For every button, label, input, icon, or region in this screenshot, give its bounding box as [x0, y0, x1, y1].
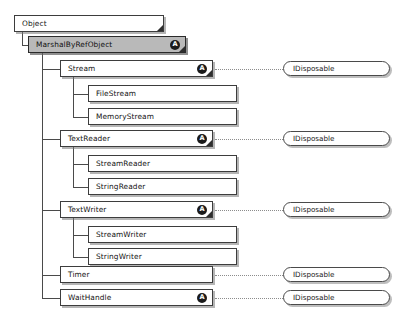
- trunk-stream: [73, 77, 74, 117]
- stub-memorystream: [73, 117, 88, 118]
- class-node-marshalbyrefobject[interactable]: MarshalByRefObjectA: [28, 36, 186, 53]
- interface-node-idisposable-stream[interactable]: IDisposable: [283, 61, 390, 76]
- interface-node-label: IDisposable: [284, 294, 335, 301]
- class-node-stringwriter[interactable]: StringWriter: [88, 248, 237, 265]
- realization-link-textreader: [215, 139, 283, 140]
- stub-stream: [42, 69, 60, 70]
- realization-link-textwriter: [215, 210, 283, 211]
- class-node-timer[interactable]: Timer: [60, 266, 213, 283]
- stub-textwriter: [42, 210, 60, 211]
- class-node-streamreader[interactable]: StreamReader: [88, 155, 237, 172]
- class-node-label: Timer: [61, 271, 90, 278]
- interface-node-label: IDisposable: [284, 65, 335, 72]
- abstract-marker-letter: A: [199, 65, 204, 72]
- trunk-marshal: [42, 53, 43, 298]
- corner-fold-icon: [157, 25, 163, 31]
- stub-stringreader: [73, 187, 88, 188]
- trunk-textwriter: [73, 218, 74, 257]
- abstract-marker-icon: A: [197, 293, 207, 303]
- stub-waithandle: [42, 298, 60, 299]
- interface-node-label: IDisposable: [284, 271, 335, 278]
- class-node-label: TextReader: [61, 135, 110, 142]
- class-node-label: MarshalByRefObject: [29, 41, 112, 48]
- class-node-label: StreamReader: [89, 160, 150, 167]
- interface-node-idisposable-waithandle[interactable]: IDisposable: [283, 290, 390, 305]
- corner-fold-icon: [179, 46, 185, 52]
- class-node-label: Object: [15, 20, 47, 27]
- class-node-label: MemoryStream: [89, 113, 154, 120]
- class-node-streamwriter[interactable]: StreamWriter: [88, 226, 237, 243]
- class-node-textwriter[interactable]: TextWriterA: [60, 201, 213, 218]
- class-diagram-canvas: ObjectMarshalByRefObjectAStreamAFileStre…: [0, 0, 409, 324]
- class-node-label: Stream: [61, 65, 95, 72]
- realization-link-timer: [215, 275, 283, 276]
- class-node-label: StringReader: [89, 183, 145, 190]
- stub-streamreader: [73, 164, 88, 165]
- corner-fold-icon: [206, 140, 212, 146]
- interface-node-label: IDisposable: [284, 206, 335, 213]
- interface-node-idisposable-timer[interactable]: IDisposable: [283, 267, 390, 282]
- class-node-label: StreamWriter: [89, 231, 147, 238]
- interface-node-idisposable-textreader[interactable]: IDisposable: [283, 131, 390, 146]
- stub-textreader: [42, 139, 60, 140]
- abstract-marker-letter: A: [199, 135, 204, 142]
- class-node-filestream[interactable]: FileStream: [88, 85, 237, 102]
- stub-stringwriter: [73, 257, 88, 258]
- stub-filestream: [73, 94, 88, 95]
- trunk-object: [22, 32, 23, 45]
- class-node-label: StringWriter: [89, 253, 142, 260]
- stub-streamwriter: [73, 235, 88, 236]
- corner-fold-icon: [206, 70, 212, 76]
- interface-node-label: IDisposable: [284, 135, 335, 142]
- realization-link-waithandle: [215, 298, 283, 299]
- class-node-textreader[interactable]: TextReaderA: [60, 130, 213, 147]
- class-node-label: FileStream: [89, 90, 136, 97]
- class-node-label: WaitHandle: [61, 294, 111, 301]
- class-node-memorystream[interactable]: MemoryStream: [88, 108, 237, 125]
- class-node-stream[interactable]: StreamA: [60, 60, 213, 77]
- trunk-textreader: [73, 147, 74, 187]
- class-node-object[interactable]: Object: [14, 15, 164, 32]
- abstract-marker-letter: A: [172, 41, 177, 48]
- realization-link-stream: [215, 69, 283, 70]
- abstract-marker-letter: A: [199, 206, 204, 213]
- class-node-stringreader[interactable]: StringReader: [88, 178, 237, 195]
- abstract-marker-letter: A: [199, 294, 204, 301]
- class-node-waithandle[interactable]: WaitHandleA: [60, 289, 213, 306]
- interface-node-idisposable-textwriter[interactable]: IDisposable: [283, 202, 390, 217]
- corner-fold-icon: [206, 211, 212, 217]
- stub-timer: [42, 275, 60, 276]
- class-node-label: TextWriter: [61, 206, 107, 213]
